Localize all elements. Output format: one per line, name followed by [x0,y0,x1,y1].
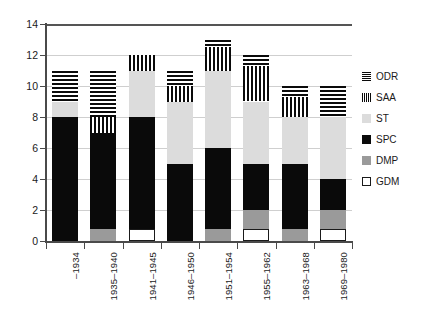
bar-segment-DMP [320,210,346,229]
y-tick-8 [40,117,46,118]
bar-segment-ODR [320,86,346,117]
y-tick-12 [40,55,46,56]
legend-label: GDM [376,177,399,187]
legend-label: DMP [376,156,398,166]
bar-segment-DMP [90,229,116,241]
legend-item-SPC[interactable]: SPC [362,129,438,150]
bar-segment-ODR [167,71,193,87]
bar-segment-SPC [90,133,116,229]
bar-segment-DMP [243,210,269,229]
x-tick-label-1963–1968: 1963–1968 [300,252,311,300]
bar-segment-ST [52,102,78,118]
bar-segment-SAA [243,66,269,102]
x-tick-6 [276,243,277,249]
white-swatch [362,177,371,186]
legend-label: ST [376,114,389,124]
bar-1946–1950 [167,24,193,241]
x-tick-label-1951–1954: 1951–1954 [223,252,234,300]
bar-segment-GDM [320,229,346,241]
vertical-stripes-swatch [362,93,371,102]
chart-legend: ODRSAASTSPCDMPGDM [362,66,438,192]
bar-segment-ODR [243,55,269,66]
black-swatch [362,135,371,144]
bar-segment-SPC [282,164,308,229]
bar-segment-DMP [205,229,231,241]
x-tick-8 [352,243,353,249]
bar-segment-ST [167,102,193,164]
bar-1941–1945 [129,24,155,241]
bar-segment-GDM [243,229,269,241]
bar-segment-ST [282,117,308,164]
plot-area [46,24,352,241]
y-tick-0 [40,241,46,242]
bar-segment-GDM [129,229,155,241]
bar-segment-SPC [167,164,193,242]
x-tick-label-–1934: –1934 [70,252,81,279]
x-tick-1 [84,243,85,249]
bar-segment-SAA [282,97,308,117]
x-tick-label-1941–1945: 1941–1945 [147,252,158,300]
y-axis-labels: 02468101214 [0,0,38,326]
stacked-bar-chart: 02468101214 –19341935–19401941–19451946–… [0,0,439,326]
x-tick-label-1946–1950: 1946–1950 [185,252,196,300]
bar-1951–1954 [205,24,231,241]
legend-label: SPC [376,135,397,145]
y-tick-label-2: 2 [4,205,38,216]
bar-segment-SAA [90,117,116,133]
y-tick-6 [40,148,46,149]
bar-1969–1980 [320,24,346,241]
y-tick-2 [40,210,46,211]
x-tick-0 [46,243,47,249]
x-tick-2 [123,243,124,249]
legend-item-DMP[interactable]: DMP [362,150,438,171]
y-tick-10 [40,86,46,87]
bar-segment-SAA [129,55,155,71]
bar-segment-SPC [320,179,346,210]
y-tick-label-10: 10 [4,81,38,92]
y-tick-label-14: 14 [4,19,38,30]
bar-segment-ST [320,117,346,179]
legend-label: ODR [376,72,398,82]
bar-segment-SPC [52,117,78,241]
bar-segment-ODR [90,71,116,118]
legend-item-GDM[interactable]: GDM [362,171,438,192]
y-tick-label-8: 8 [4,112,38,123]
legend-item-ST[interactable]: ST [362,108,438,129]
bar-segment-ODR [282,86,308,97]
x-tick-label-1955–1962: 1955–1962 [261,252,272,300]
medium-gray-swatch [362,156,371,165]
bar-segment-ODR [205,40,231,48]
y-tick-label-0: 0 [4,236,38,247]
x-tick-3 [161,243,162,249]
bar-segment-SPC [243,164,269,211]
x-tick-4 [199,243,200,249]
y-tick-label-4: 4 [4,174,38,185]
bar-1935–1940 [90,24,116,241]
x-tick-label-1969–1980: 1969–1980 [338,252,349,300]
light-gray-swatch [362,114,371,123]
y-tick-14 [40,24,46,25]
bar-segment-ST [243,102,269,164]
y-tick-label-6: 6 [4,143,38,154]
legend-label: SAA [376,93,396,103]
x-tick-7 [314,243,315,249]
bar-1955–1962 [243,24,269,241]
y-tick-4 [40,179,46,180]
bar-segment-SAA [167,86,193,102]
y-tick-label-12: 12 [4,50,38,61]
bar-segment-DMP [282,229,308,241]
bar-1963–1968 [282,24,308,241]
bar-segment-SAA [205,47,231,70]
bar-segment-ST [205,71,231,149]
bar-segment-SPC [129,117,155,229]
horizontal-stripes-swatch [362,72,371,81]
bar-–1934 [52,24,78,241]
bar-segment-ST [129,71,155,118]
x-tick-label-1935–1940: 1935–1940 [108,252,119,300]
legend-item-SAA[interactable]: SAA [362,87,438,108]
x-tick-5 [237,243,238,249]
bar-segment-ODR [52,71,78,102]
bar-segment-SPC [205,148,231,229]
legend-item-ODR[interactable]: ODR [362,66,438,87]
